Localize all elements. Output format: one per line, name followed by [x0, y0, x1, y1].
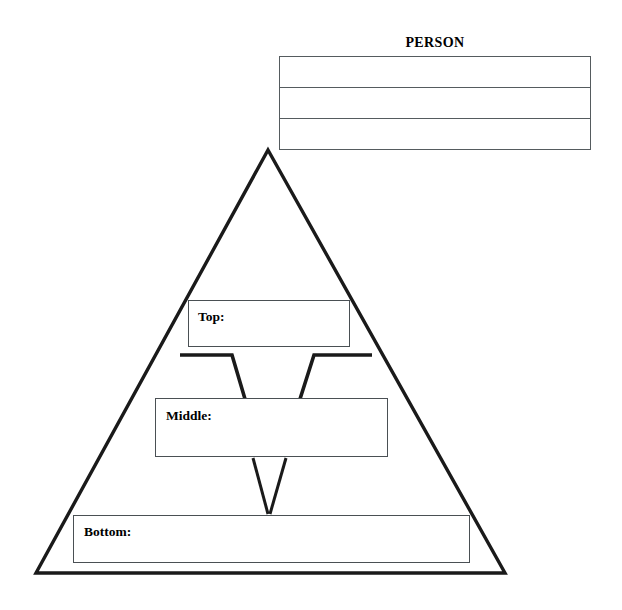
pyramid-level-middle-label: Middle:: [166, 408, 212, 424]
pyramid-level-bottom-box[interactable]: [73, 515, 470, 563]
pyramid-level-top-label: Top:: [198, 309, 225, 325]
pyramid-level-middle-box[interactable]: [155, 398, 388, 457]
connector-top-middle-left: [180, 355, 245, 399]
worksheet-page: PERSON Top:: [0, 0, 622, 610]
connector-middle-bottom-right: [270, 458, 286, 514]
connector-top-middle-right: [300, 355, 372, 399]
connector-middle-bottom-left: [253, 458, 268, 514]
pyramid-level-bottom-label: Bottom:: [84, 524, 131, 540]
